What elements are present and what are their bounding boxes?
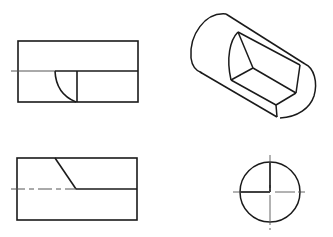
iso-left-cap <box>191 14 226 73</box>
iso-cut-end-bottom <box>276 93 296 105</box>
drawing-canvas <box>0 0 333 237</box>
iso-cut-end-vertical <box>296 65 300 93</box>
front-view <box>11 41 138 102</box>
front-arc <box>55 71 76 102</box>
iso-cut-diagonal <box>238 32 253 68</box>
iso-cut-floor-edge <box>231 80 276 105</box>
iso-cut-curve <box>229 32 238 80</box>
side-view <box>233 155 305 230</box>
iso-cut-top-back <box>238 32 300 65</box>
iso-cut-end-drop <box>276 105 277 117</box>
iso-bottom-edge <box>200 72 277 117</box>
top-view <box>11 158 137 220</box>
top-diagonal <box>55 158 76 189</box>
isometric-view <box>191 14 316 118</box>
iso-cut-floor-front <box>231 68 253 80</box>
iso-top-edge <box>226 14 305 64</box>
iso-right-cap <box>280 64 316 118</box>
iso-cut-floor-back <box>253 68 296 93</box>
